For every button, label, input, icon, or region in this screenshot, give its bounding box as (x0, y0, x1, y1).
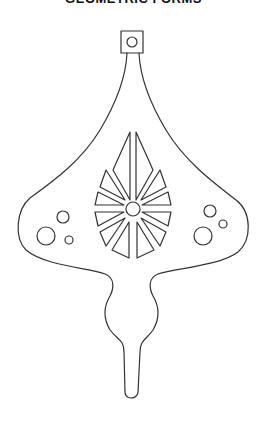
ornament-body (18, 53, 248, 398)
right-circle-cluster (194, 205, 227, 245)
left-circle-cluster (37, 211, 73, 245)
hanger-hole (127, 37, 137, 47)
ornament-illustration (0, 0, 267, 434)
hanger-loop (121, 31, 143, 53)
central-rosette (95, 132, 171, 258)
rosette-center-circle (126, 202, 140, 216)
